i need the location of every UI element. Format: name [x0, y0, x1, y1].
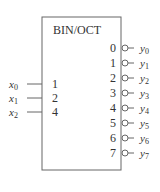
svg-text:3: 3: [110, 86, 116, 100]
svg-text:y7: y7: [139, 147, 149, 161]
input-x0: x0 1: [8, 77, 58, 92]
input-x1: x1 2: [8, 91, 58, 106]
input-x2: x2 4: [8, 105, 58, 120]
output-y7: 7y7: [110, 146, 149, 161]
svg-text:y6: y6: [139, 132, 149, 146]
svg-text:7: 7: [110, 146, 116, 160]
output-y3: 3y3: [110, 86, 149, 101]
output-y1: 1y1: [110, 56, 149, 71]
svg-text:5: 5: [110, 116, 116, 130]
svg-text:y1: y1: [139, 57, 149, 71]
input-weight: 4: [52, 105, 58, 119]
block-title: BIN/OCT: [53, 23, 102, 37]
input-weight: 2: [52, 91, 58, 105]
svg-text:0: 0: [110, 41, 116, 55]
output-y0: 0y0: [110, 41, 149, 56]
svg-text:4: 4: [110, 101, 116, 115]
decoder-diagram: BIN/OCT x0 1 x1 2 x2 4 0y0 1y1 2y2 3y3 4…: [0, 0, 160, 192]
output-y5: 5y5: [110, 116, 149, 131]
svg-text:y0: y0: [139, 42, 149, 56]
svg-text:x1: x1: [8, 92, 18, 106]
svg-text:y2: y2: [139, 72, 149, 86]
output-y2: 2y2: [110, 71, 149, 86]
svg-text:y5: y5: [139, 117, 149, 131]
svg-text:y4: y4: [139, 102, 149, 116]
svg-text:6: 6: [110, 131, 116, 145]
output-y4: 4y4: [110, 101, 149, 116]
svg-text:x2: x2: [8, 106, 18, 120]
svg-text:y3: y3: [139, 87, 149, 101]
svg-text:x0: x0: [8, 78, 18, 92]
input-weight: 1: [52, 77, 58, 91]
svg-text:1: 1: [110, 56, 116, 70]
svg-text:2: 2: [110, 71, 116, 85]
output-y6: 6y6: [110, 131, 149, 146]
